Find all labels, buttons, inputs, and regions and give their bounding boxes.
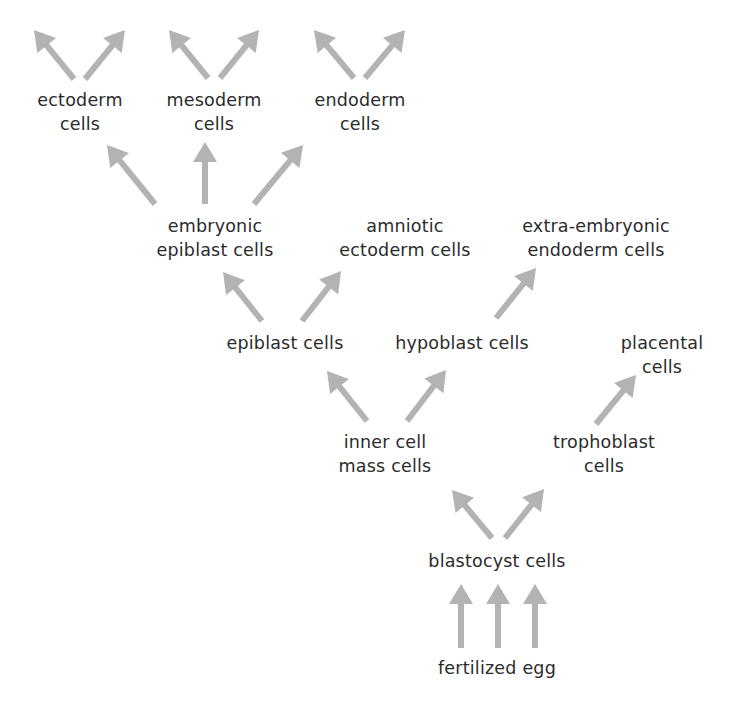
node-embryonic-epiblast: embryonicepiblast cells — [156, 214, 273, 262]
node-label-line: cells — [621, 355, 703, 379]
node-amniotic-ectoderm: amnioticectoderm cells — [339, 214, 470, 262]
arrow-icon — [596, 375, 636, 424]
node-inner-cell-mass: inner cellmass cells — [339, 430, 432, 478]
node-fertilized-egg: fertilized egg — [438, 656, 556, 680]
node-label-line: extra-embryonic — [522, 214, 670, 238]
node-label-line: ectoderm cells — [339, 238, 470, 262]
node-label-line: epiblast cells — [156, 238, 273, 262]
arrow-icon — [486, 584, 510, 648]
node-extra-embryonic-endoderm: extra-embryonicendoderm cells — [522, 214, 670, 262]
node-hypoblast: hypoblast cells — [395, 331, 529, 355]
arrow-icon — [449, 584, 473, 648]
node-label-line: embryonic — [156, 214, 273, 238]
node-ectoderm: ectodermcells — [37, 88, 122, 136]
node-label-line: endoderm cells — [522, 238, 670, 262]
node-label-line: fertilized egg — [438, 656, 556, 680]
arrow-icon — [505, 489, 544, 538]
node-label-line: cells — [314, 112, 405, 136]
arrow-icon — [34, 30, 74, 79]
arrow-icon — [254, 145, 303, 204]
node-label-line: amniotic — [339, 214, 470, 238]
arrow-icon — [496, 268, 536, 318]
arrow-icon — [407, 370, 446, 421]
node-label-line: cells — [37, 112, 122, 136]
arrow-icon — [169, 30, 208, 78]
arrow-icon — [314, 30, 354, 78]
arrow-icon — [85, 30, 125, 79]
node-epiblast: epiblast cells — [226, 331, 343, 355]
node-label-line: ectoderm — [37, 88, 122, 112]
arrow-icon — [302, 271, 341, 321]
node-mesoderm: mesodermcells — [166, 88, 261, 136]
arrow-icon — [223, 272, 262, 321]
arrow-icon — [193, 142, 217, 204]
node-trophoblast: trophoblastcells — [553, 430, 655, 478]
node-label-line: blastocyst cells — [428, 549, 565, 573]
node-label-line: cells — [553, 454, 655, 478]
node-endoderm: endodermcells — [314, 88, 405, 136]
arrow-icon — [327, 371, 367, 421]
node-label-line: epiblast cells — [226, 331, 343, 355]
arrow-icon — [452, 490, 492, 538]
arrow-icon — [523, 584, 547, 648]
node-label-line: mass cells — [339, 454, 432, 478]
arrow-icon — [365, 30, 405, 78]
arrow-icon — [107, 145, 155, 204]
arrow-icon — [220, 30, 259, 78]
node-label-line: inner cell — [339, 430, 432, 454]
node-blastocyst: blastocyst cells — [428, 549, 565, 573]
node-label-line: placental — [621, 331, 703, 355]
cell-lineage-diagram: ectodermcellsmesodermcellsendodermcellse… — [0, 0, 743, 706]
node-label-line: cells — [166, 112, 261, 136]
node-placental: placentalcells — [621, 331, 703, 379]
node-label-line: hypoblast cells — [395, 331, 529, 355]
node-label-line: trophoblast — [553, 430, 655, 454]
node-label-line: endoderm — [314, 88, 405, 112]
node-label-line: mesoderm — [166, 88, 261, 112]
